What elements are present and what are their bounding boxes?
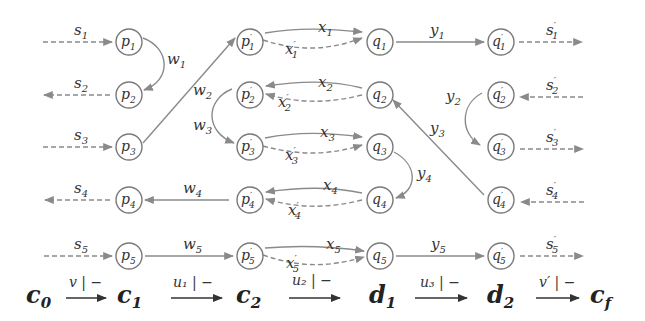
node-pp2: p′2 <box>237 82 263 108</box>
label-s5: s5 <box>74 235 88 255</box>
node-p4: p4 <box>116 187 142 213</box>
node-qp5: q′5 <box>488 243 514 269</box>
label-w5: w5 <box>183 235 202 255</box>
node-p3: p3 <box>116 134 142 160</box>
edge-x2 <box>266 82 362 88</box>
state-d2: d2 <box>487 280 514 312</box>
label-x4: x4 <box>323 176 338 196</box>
edge-xp4 <box>266 199 362 206</box>
label-y3: y3 <box>429 119 445 139</box>
node-p5: p5 <box>116 243 142 269</box>
label-y2: y2 <box>445 87 461 107</box>
label-sp5: s′5 <box>546 234 558 255</box>
edge-y2 <box>465 93 482 145</box>
label-s2: s2 <box>74 74 88 94</box>
label-w1: w1 <box>167 50 186 70</box>
edge-w1 <box>143 38 164 90</box>
label-xp2: x′2 <box>278 92 291 113</box>
label-sp1: s′1 <box>546 20 558 41</box>
label-y4: y4 <box>416 164 432 184</box>
node-qp2: q′2 <box>488 82 514 108</box>
state-sequence: c0 c1 c2 d1 d2 cf v | − u₁ | − u₂ | − u₃… <box>26 272 614 312</box>
state-c0: c0 <box>26 280 52 312</box>
label-xp4: x′4 <box>288 200 301 221</box>
edge-x4 <box>266 188 362 193</box>
edge-x3 <box>265 133 362 138</box>
label-x2: x2 <box>318 73 333 93</box>
node-q2: q2 <box>367 82 393 108</box>
label-sp4: s′4 <box>546 180 558 201</box>
node-q3: q3 <box>367 134 393 160</box>
edge-xp1 <box>263 38 362 48</box>
transition-label-2: u₁ | − <box>173 274 213 291</box>
edge-x5 <box>265 246 364 251</box>
state-d1: d1 <box>369 280 396 312</box>
transition-label-5: v′ | − <box>539 274 575 291</box>
state-c2: c2 <box>236 280 261 312</box>
edge-xp5 <box>263 255 364 265</box>
state-c1: c1 <box>117 280 142 312</box>
label-x5: x5 <box>326 235 341 255</box>
node-q1: q1 <box>367 29 393 55</box>
node-q4: q4 <box>367 187 393 213</box>
node-p1: p1 <box>116 29 142 55</box>
label-s3: s3 <box>74 126 88 146</box>
edge-x1 <box>265 29 362 33</box>
label-x1: x1 <box>318 18 333 38</box>
label-x3: x3 <box>320 123 335 143</box>
label-s4: s4 <box>74 179 88 199</box>
edge-y4 <box>394 152 412 198</box>
label-sp2: s′2 <box>546 75 558 96</box>
label-w4: w4 <box>183 179 202 199</box>
edge-w2 <box>143 38 235 143</box>
label-sp3: s′3 <box>546 127 558 148</box>
label-w3: w3 <box>193 116 212 136</box>
node-pp3: p′3 <box>237 134 263 160</box>
label-xp1: x′1 <box>285 39 298 60</box>
label-y1: y1 <box>429 21 445 41</box>
label-xp5: x′5 <box>286 253 299 274</box>
node-qp3: q′3 <box>488 134 514 160</box>
label-s1: s1 <box>74 21 88 41</box>
edge-xp3 <box>263 145 362 153</box>
node-qp4: q′4 <box>488 187 514 213</box>
node-pp1: p′1 <box>237 29 263 55</box>
transition-label-3: u₂ | − <box>292 272 332 289</box>
edge-w3 <box>212 89 234 143</box>
edge-labels-layer: s1 s2 s3 s4 s5 w1 w2 w3 w4 w5 x1 x′1 x2 … <box>74 18 558 274</box>
node-p2: p2 <box>116 82 142 108</box>
transition-label-4: u₃ | − <box>420 274 460 291</box>
node-pp4: p′4 <box>237 187 263 213</box>
transition-diagram: p1p2p3p4p5p′1p′2p′3p′4p′5q1q2q3q4q5q′1q′… <box>0 0 645 321</box>
state-cf: cf <box>590 280 614 312</box>
edge-y3 <box>393 100 484 195</box>
node-qp1: q′1 <box>488 29 514 55</box>
node-pp5: p′5 <box>237 243 263 269</box>
label-w2: w2 <box>193 81 212 101</box>
transition-label-1: v | − <box>69 274 102 291</box>
node-q5: q5 <box>367 243 393 269</box>
label-y5: y5 <box>430 235 446 255</box>
label-xp3: x′3 <box>285 145 298 166</box>
